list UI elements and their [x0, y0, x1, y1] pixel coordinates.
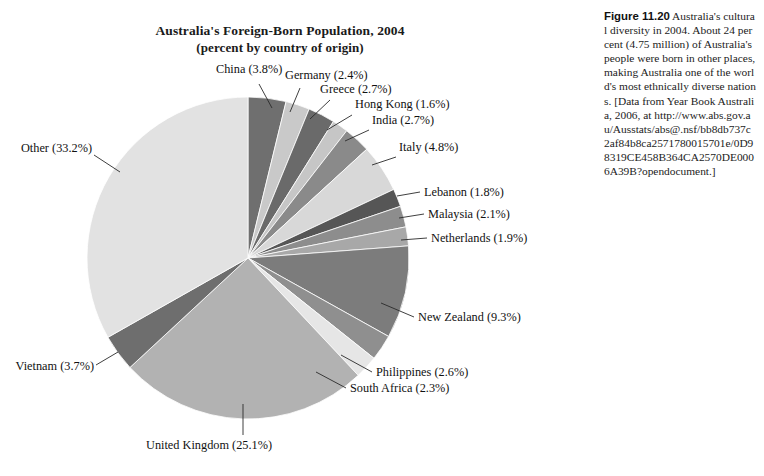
slice-label-hongkong: Hong Kong (1.6%) [355, 97, 450, 111]
pie-chart-panel: Australia's Foreign-Born Population, 200… [0, 0, 590, 476]
leader-line-lebanon [397, 192, 420, 196]
figure-page: Australia's Foreign-Born Population, 200… [0, 0, 764, 476]
figure-caption: Figure 11.20 Australia's cultural divers… [604, 9, 756, 178]
leader-line-other [94, 155, 120, 172]
slice-label-newzealand: New Zealand (9.3%) [418, 310, 521, 324]
pie-slices [87, 97, 409, 419]
leader-line-vietnam [96, 352, 118, 365]
slice-label-italy: Italy (4.8%) [399, 140, 458, 154]
pie-graphic: China (3.8%) Germany (2.4%) Greece (2.7%… [0, 0, 590, 476]
slice-label-malaysia: Malaysia (2.1%) [428, 207, 510, 221]
slice-label-germany: Germany (2.4%) [285, 68, 368, 82]
figure-caption-text: Australia's cultural diversity in 2004. … [604, 10, 756, 177]
figure-number: Figure 11.20 [604, 10, 670, 22]
slice-label-other: Other (33.2%) [0, 141, 92, 155]
slice-label-southafrica: South Africa (2.3%) [350, 381, 449, 395]
slice-label-greece: Greece (2.7%) [320, 82, 392, 96]
slice-label-unitedkingdom: United Kingdom (25.1%) [146, 438, 272, 452]
slice-label-philippines: Philippines (2.6%) [376, 365, 468, 379]
slice-label-netherlands: Netherlands (1.9%) [431, 231, 527, 245]
slice-label-lebanon: Lebanon (1.8%) [424, 185, 504, 199]
slice-label-china: China (3.8%) [216, 62, 282, 76]
slice-label-india: India (2.7%) [372, 113, 434, 127]
slice-label-vietnam: Vietnam (3.7%) [0, 359, 94, 373]
